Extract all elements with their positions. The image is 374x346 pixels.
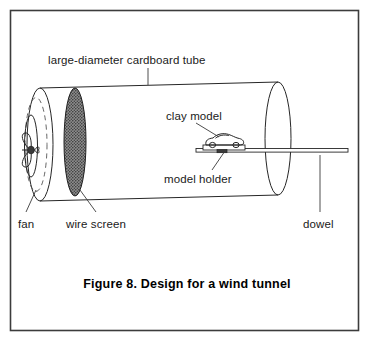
leader-model-holder (212, 151, 225, 170)
tube-right-opening (265, 82, 291, 195)
model-assembly (203, 134, 245, 153)
label-clay-model: clay model (166, 110, 222, 122)
label-dowel: dowel (303, 218, 334, 230)
figure-container: large-diameter cardboard tube clay model… (0, 0, 374, 346)
label-tube: large-diameter cardboard tube (48, 54, 206, 66)
fan-blade-right (35, 147, 40, 153)
figure-caption: Figure 8. Design for a wind tunnel (83, 277, 291, 291)
label-wire-screen: wire screen (65, 218, 126, 230)
fan-hub (28, 146, 35, 154)
leader-fan (26, 190, 36, 212)
fan-assembly (22, 98, 47, 192)
leader-clay-model (196, 123, 219, 137)
label-fan: fan (18, 218, 34, 230)
model-holder-clamp (217, 150, 227, 153)
wire-screen-disc (64, 88, 86, 196)
fan-mount-ring (25, 98, 47, 192)
leader-wire-screen (80, 190, 96, 212)
tube-top-edge (40, 82, 278, 88)
wire-screen (64, 88, 86, 196)
wind-tunnel-diagram: large-diameter cardboard tube clay model… (0, 0, 374, 346)
label-model-holder: model holder (164, 173, 232, 185)
